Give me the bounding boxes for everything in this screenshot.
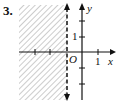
y-axis-label: y	[87, 2, 92, 14]
coordinate-plot	[0, 0, 120, 106]
origin-label: O	[69, 53, 77, 65]
y-tick-label: 1	[72, 30, 78, 42]
y-axis-arrow-icon	[79, 3, 85, 10]
x-axis-label: x	[108, 55, 113, 67]
x-tick-label: 1	[95, 55, 101, 67]
